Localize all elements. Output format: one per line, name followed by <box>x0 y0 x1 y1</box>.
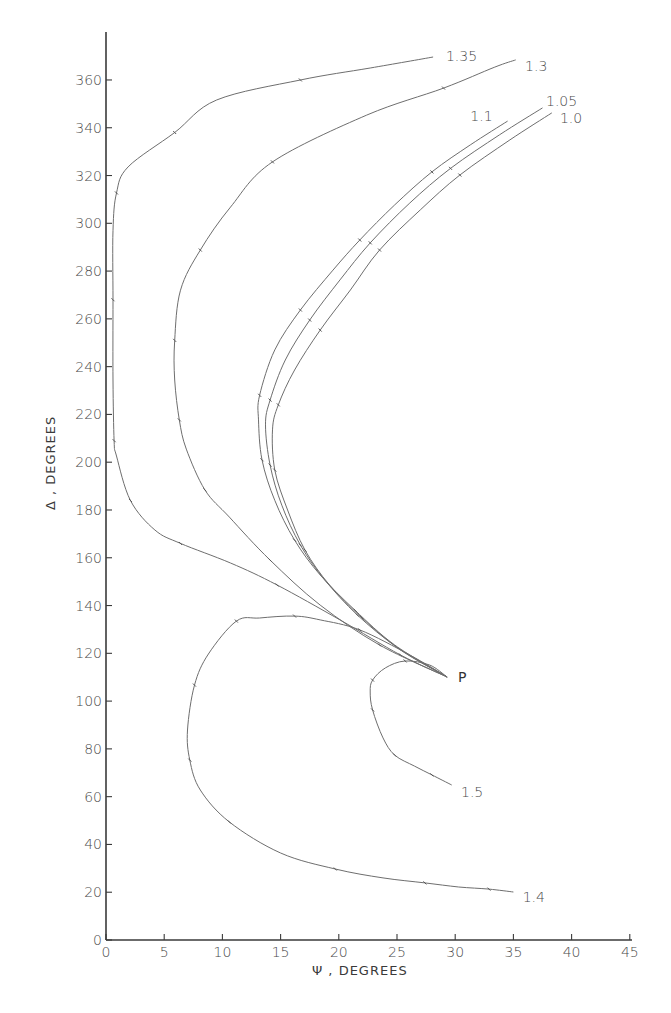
curve-marker <box>393 754 396 757</box>
curve-1-1 <box>258 121 508 677</box>
y-tick-label: 240 <box>75 359 102 375</box>
y-tick-label: 220 <box>75 406 102 422</box>
curve-label-1-1: 1.1 <box>470 108 492 124</box>
curve-path <box>174 60 516 677</box>
axes <box>106 32 632 940</box>
x-tick-label: 5 <box>160 944 169 960</box>
curve-1-5 <box>370 659 452 785</box>
y-tick-label: 80 <box>84 741 102 757</box>
y-tick-label: 280 <box>75 263 102 279</box>
y-tick-label: 0 <box>93 932 102 948</box>
curve-label-1-4: 1.4 <box>523 889 545 905</box>
y-tick-label: 20 <box>84 884 102 900</box>
y-tick-label: 320 <box>75 168 102 184</box>
y-tick-label: 340 <box>75 120 102 136</box>
y-tick-label: 260 <box>75 311 102 327</box>
y-tick-label: 100 <box>75 693 102 709</box>
curve-marker <box>203 488 206 491</box>
curve-marker <box>269 559 272 562</box>
curve-path <box>370 661 452 785</box>
y-tick-label: 360 <box>75 72 102 88</box>
x-tick-label: 45 <box>621 944 639 960</box>
y-tick-label: 180 <box>75 502 102 518</box>
y-axis-title: Δ , DEGREES <box>43 416 58 510</box>
curve-marker <box>293 539 296 542</box>
x-tick-label: 20 <box>330 944 348 960</box>
y-tick-label: 200 <box>75 454 102 470</box>
curve-path <box>187 616 513 892</box>
x-tick-label: 10 <box>213 944 231 960</box>
chart-canvas: 051015202530354045 020406080100120140160… <box>0 0 671 1013</box>
y-tick-label: 300 <box>75 215 102 231</box>
x-tick-label: 25 <box>388 944 406 960</box>
curve-path <box>113 57 447 677</box>
curve-path <box>266 108 543 677</box>
curve-label-1-05: 1.05 <box>546 93 577 109</box>
x-tick-label: 35 <box>504 944 522 960</box>
curve-marker <box>228 820 231 823</box>
y-tick-label: 140 <box>75 598 102 614</box>
curve-1-35 <box>111 57 447 677</box>
curve-label-1-35: 1.35 <box>446 48 477 64</box>
curve-1-4 <box>187 615 513 892</box>
curve-path <box>258 121 508 677</box>
curve-label-1-5: 1.5 <box>461 784 483 800</box>
x-tick-label: 40 <box>563 944 581 960</box>
point-p-label: P <box>458 669 466 685</box>
curve-label-1-3: 1.3 <box>525 58 547 74</box>
y-tick-label: 60 <box>84 789 102 805</box>
y-tick-label: 160 <box>75 550 102 566</box>
curve-family <box>111 57 551 892</box>
x-axis-ticks: 051015202530354045 <box>102 934 639 960</box>
x-axis-title: Ψ , DEGREES <box>312 963 408 978</box>
x-tick-label: 15 <box>272 944 290 960</box>
y-tick-label: 40 <box>84 836 102 852</box>
x-tick-label: 30 <box>446 944 464 960</box>
x-tick-label: 0 <box>102 944 111 960</box>
curve-label-1-0: 1.0 <box>560 110 582 126</box>
y-tick-label: 120 <box>75 645 102 661</box>
curve-1-0 <box>272 113 552 677</box>
curve-1-3 <box>173 60 516 677</box>
curve-1-05 <box>266 108 543 677</box>
curve-labels: 1.351.31.11.051.01.41.5 <box>446 48 582 905</box>
curve-path <box>272 113 552 677</box>
